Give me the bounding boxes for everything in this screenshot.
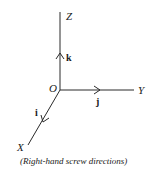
k-vector-label: k bbox=[66, 52, 72, 63]
coordinate-diagram: Z Y X O k j i (Right-hand screw directio… bbox=[0, 0, 153, 173]
j-vector-label: j bbox=[95, 96, 99, 107]
x-axis bbox=[28, 90, 60, 145]
x-axis-label: X bbox=[16, 141, 25, 153]
y-axis-label: Y bbox=[138, 84, 146, 96]
origin-label: O bbox=[49, 82, 57, 94]
caption: (Right-hand screw directions) bbox=[20, 156, 127, 166]
i-vector-label: i bbox=[35, 107, 38, 118]
z-axis-label: Z bbox=[66, 10, 73, 22]
